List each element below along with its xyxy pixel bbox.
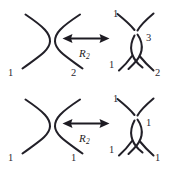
first-r2-move-row: 1 2 R2	[0, 0, 172, 85]
region-label: 1	[8, 68, 13, 79]
top-right-tangle-diagram: 1 3 1 2	[104, 0, 172, 85]
second-r2-move-row: 1 1 R2 1 1	[0, 85, 172, 170]
region-label: 1	[146, 118, 151, 129]
move-label-r2: R2	[79, 48, 89, 59]
double-headed-arrow-shape	[63, 119, 110, 128]
reidemeister-r2-figure: 1 2 R2	[0, 0, 172, 170]
region-label: 1	[113, 94, 118, 105]
region-label: 1	[113, 9, 118, 20]
region-label: 2	[155, 68, 160, 79]
region-label: 1	[155, 153, 160, 164]
region-label: 1	[109, 145, 114, 156]
move-label-subscript: 2	[86, 52, 90, 61]
region-label: 1	[8, 153, 13, 164]
move-label-letter: R	[79, 132, 86, 144]
region-label: 3	[146, 33, 151, 44]
region-label: 1	[109, 60, 114, 71]
move-label-letter: R	[79, 47, 86, 59]
move-label-subscript: 2	[86, 137, 90, 146]
double-headed-arrow-shape	[63, 34, 110, 43]
move-label-r2: R2	[79, 133, 89, 144]
bottom-right-tangle-diagram: 1 1 1 1	[104, 85, 172, 170]
